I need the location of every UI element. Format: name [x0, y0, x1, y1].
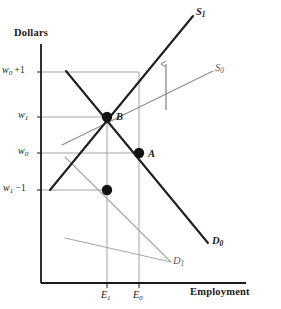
- curve-label-s0: S0: [215, 63, 224, 74]
- curve-d1-upper: [65, 157, 171, 262]
- y-tick-base-0: w: [2, 64, 9, 75]
- x-tick-sub-0: 1: [107, 294, 111, 302]
- x-tick-label-e0: E0: [133, 290, 143, 302]
- curve-label-d0: D0: [212, 236, 223, 247]
- x-tick-label-e1: E1: [101, 290, 111, 302]
- y-tick-label-w0: w0: [18, 146, 28, 158]
- curves: [50, 16, 213, 262]
- supply-demand-figure: Dollars Employment w0 +1 w1 w0 w1 −1 E1 …: [0, 0, 281, 309]
- point-label-a: A: [148, 149, 155, 160]
- y-tick-base-2: w: [18, 145, 25, 156]
- curve-label-d1-base: D: [173, 255, 181, 266]
- point-marker-c: [102, 185, 112, 195]
- y-tick-label-w1: w1: [18, 110, 28, 122]
- curve-label-d1-sub: 1: [181, 259, 185, 268]
- y-tick-label-w1-minus-1: w1 −1: [3, 183, 26, 195]
- point-marker-a: [134, 148, 144, 158]
- y-tick-op-0: +1: [12, 65, 24, 75]
- curve-label-d0-sub: 0: [220, 239, 224, 248]
- y-tick-base-3: w: [3, 182, 10, 193]
- curve-label-d0-base: D: [212, 235, 220, 246]
- curve-label-s1-sub: 1: [202, 10, 206, 19]
- x-axis-title: Employment: [190, 287, 250, 298]
- y-tick-sub-2: 0: [25, 150, 29, 158]
- y-tick-sub-1: 1: [25, 114, 29, 122]
- curve-label-s0-sub: 0: [220, 66, 224, 75]
- point-marker-b: [102, 112, 112, 122]
- point-label-b: B: [116, 112, 123, 123]
- y-tick-base-1: w: [18, 109, 25, 120]
- y-tick-label-w0-plus-1: w0 +1: [2, 65, 25, 77]
- curve-s1: [50, 16, 193, 190]
- curve-d1: [65, 238, 171, 262]
- curve-label-s1: S1: [196, 7, 206, 18]
- x-tick-sub-1: 0: [139, 294, 143, 302]
- y-axis-title: Dollars: [14, 28, 48, 39]
- chart-canvas: [0, 0, 281, 309]
- y-tick-op-3: −1: [13, 183, 25, 193]
- curve-label-d1: D1: [173, 256, 184, 267]
- equilibrium-points: [102, 112, 144, 195]
